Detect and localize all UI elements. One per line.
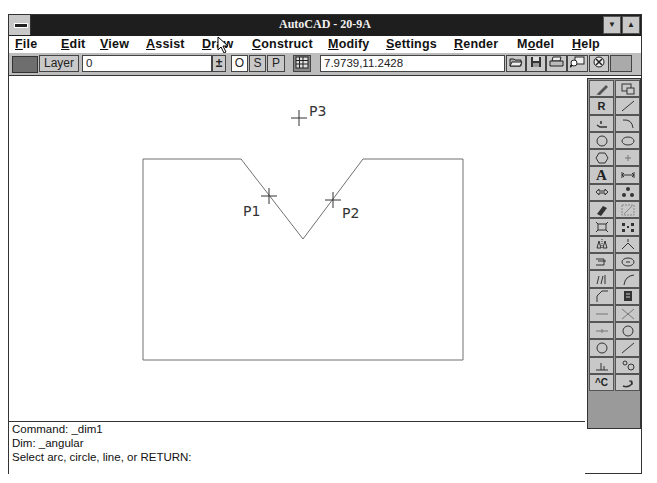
polyline-tool-button[interactable] <box>589 115 614 132</box>
grips-tool-button[interactable] <box>615 218 640 235</box>
grid-icon <box>295 56 309 69</box>
cross-tool-button[interactable] <box>615 305 640 322</box>
dimension-tool-button[interactable] <box>615 166 640 183</box>
menu-model[interactable]: Model <box>517 37 554 51</box>
open-button[interactable] <box>506 55 526 72</box>
move-icon <box>594 186 610 198</box>
drawing-canvas[interactable]: P3 P1 P2 <box>9 76 587 421</box>
rotate-tool-button[interactable] <box>615 236 640 253</box>
print-button[interactable] <box>546 55 567 72</box>
circle-center-tool-button[interactable] <box>615 322 640 339</box>
horizontal-line-tool-button[interactable] <box>589 305 614 322</box>
trim-icon <box>594 273 610 285</box>
polyline-icon <box>594 117 610 129</box>
chamfer-tool-button[interactable] <box>589 288 614 305</box>
minimize-button[interactable]: ▼ <box>603 16 621 34</box>
fillet-icon <box>620 273 636 285</box>
menu-file[interactable]: File <box>15 37 37 51</box>
trim-tool-button[interactable] <box>589 270 614 287</box>
menu-render[interactable]: Render <box>454 37 498 51</box>
pencil-tool-button[interactable] <box>589 80 614 97</box>
mouse-cursor-icon <box>217 36 231 54</box>
redraw-tool-button[interactable]: R <box>589 97 614 114</box>
undo-icon <box>620 377 636 389</box>
menu-edit[interactable]: Edit <box>61 37 85 51</box>
line-tool-button[interactable] <box>615 97 640 114</box>
toolbar: Layer 0 ± O S P 7.9739,11.2428 <box>9 53 641 76</box>
arc-tool-button[interactable] <box>615 115 640 132</box>
menu-modify[interactable]: Modify <box>328 37 369 51</box>
command-line-area[interactable]: Command: _dim1 Dim: _angular Select arc,… <box>9 421 585 474</box>
undo-tool-button[interactable] <box>615 374 640 391</box>
coordinates-display: 7.9739,11.2428 <box>320 55 505 72</box>
current-color-button[interactable] <box>12 56 38 73</box>
cancel-tool-button[interactable]: ^C <box>589 374 614 391</box>
erase-tool-button[interactable] <box>589 201 614 218</box>
help-icon <box>593 56 605 68</box>
dimension-icon <box>620 169 636 181</box>
ellipse-icon <box>620 135 636 147</box>
cross-icon <box>620 308 636 320</box>
explode-icon <box>594 221 610 233</box>
donut-icon <box>594 342 610 354</box>
offset-tool-button[interactable] <box>589 253 614 270</box>
center-line-icon <box>594 325 610 337</box>
stretch-tool-button[interactable] <box>615 201 640 218</box>
array-tool-button[interactable] <box>615 184 640 201</box>
window-title: AutoCAD - 20-9A <box>9 17 641 32</box>
p2-marker <box>325 192 341 208</box>
zoom-window-button[interactable] <box>567 55 588 72</box>
circle-tool-button[interactable] <box>589 132 614 149</box>
redraw-icon: R <box>598 100 606 112</box>
offset-icon <box>594 256 610 268</box>
polygon-tool-button[interactable] <box>589 149 614 166</box>
copy-window-tool-button[interactable] <box>615 80 640 97</box>
grid-button[interactable] <box>293 55 311 72</box>
point-icon <box>620 152 636 164</box>
p3-label: P3 <box>309 103 326 119</box>
break-tool-button[interactable] <box>615 253 640 270</box>
layer-button[interactable]: Layer <box>39 55 79 72</box>
autocad-window: AutoCAD - 20-9A ▼ ▲ FileEditViewAssistDr… <box>8 14 642 474</box>
save-button[interactable] <box>526 55 546 72</box>
horizontal-line-icon <box>594 308 610 320</box>
ortho-toggle[interactable]: O <box>231 55 248 72</box>
title-bar: AutoCAD - 20-9A ▼ ▲ <box>9 15 641 37</box>
ellipse-tool-button[interactable] <box>615 132 640 149</box>
snap-toggle[interactable]: S <box>249 55 266 72</box>
blank-toolbar-button[interactable] <box>610 55 632 72</box>
maximize-button[interactable]: ▲ <box>622 16 640 34</box>
fillet-tool-button[interactable] <box>615 270 640 287</box>
diagonal-line-tool-button[interactable] <box>615 339 640 356</box>
v-notch-block-outline <box>143 159 463 360</box>
block-tool-button[interactable] <box>615 288 640 305</box>
menu-help[interactable]: Help <box>572 37 600 51</box>
explode-tool-button[interactable] <box>589 218 614 235</box>
paper-space-toggle[interactable]: P <box>267 55 285 72</box>
layer-dropdown-button[interactable]: ± <box>212 55 226 72</box>
current-layer-field[interactable]: 0 <box>82 55 212 72</box>
menu-construct[interactable]: Construct <box>252 37 313 51</box>
menu-view[interactable]: View <box>100 37 129 51</box>
line-icon <box>620 100 636 112</box>
point-tool-button[interactable] <box>615 149 640 166</box>
move-tool-button[interactable] <box>589 184 614 201</box>
ordinate-tool-button[interactable] <box>589 357 614 374</box>
text-tool-button[interactable]: A <box>589 166 614 183</box>
menu-assist[interactable]: Assist <box>146 37 185 51</box>
rotate-icon <box>620 238 636 250</box>
osnap-tool-button[interactable] <box>615 357 640 374</box>
donut-tool-button[interactable] <box>589 339 614 356</box>
grips-icon <box>620 221 636 233</box>
array-icon <box>620 186 636 198</box>
p2-label: P2 <box>342 205 359 221</box>
help-button[interactable] <box>589 55 609 72</box>
mirror-tool-button[interactable] <box>589 236 614 253</box>
menu-settings[interactable]: Settings <box>386 37 437 51</box>
maximize-icon: ▲ <box>627 20 635 29</box>
block-icon <box>620 290 636 302</box>
menu-bar: FileEditViewAssistDrawConstructModifySet… <box>9 36 641 54</box>
p3-marker <box>291 110 307 126</box>
center-line-tool-button[interactable] <box>589 322 614 339</box>
mirror-icon <box>594 238 610 250</box>
